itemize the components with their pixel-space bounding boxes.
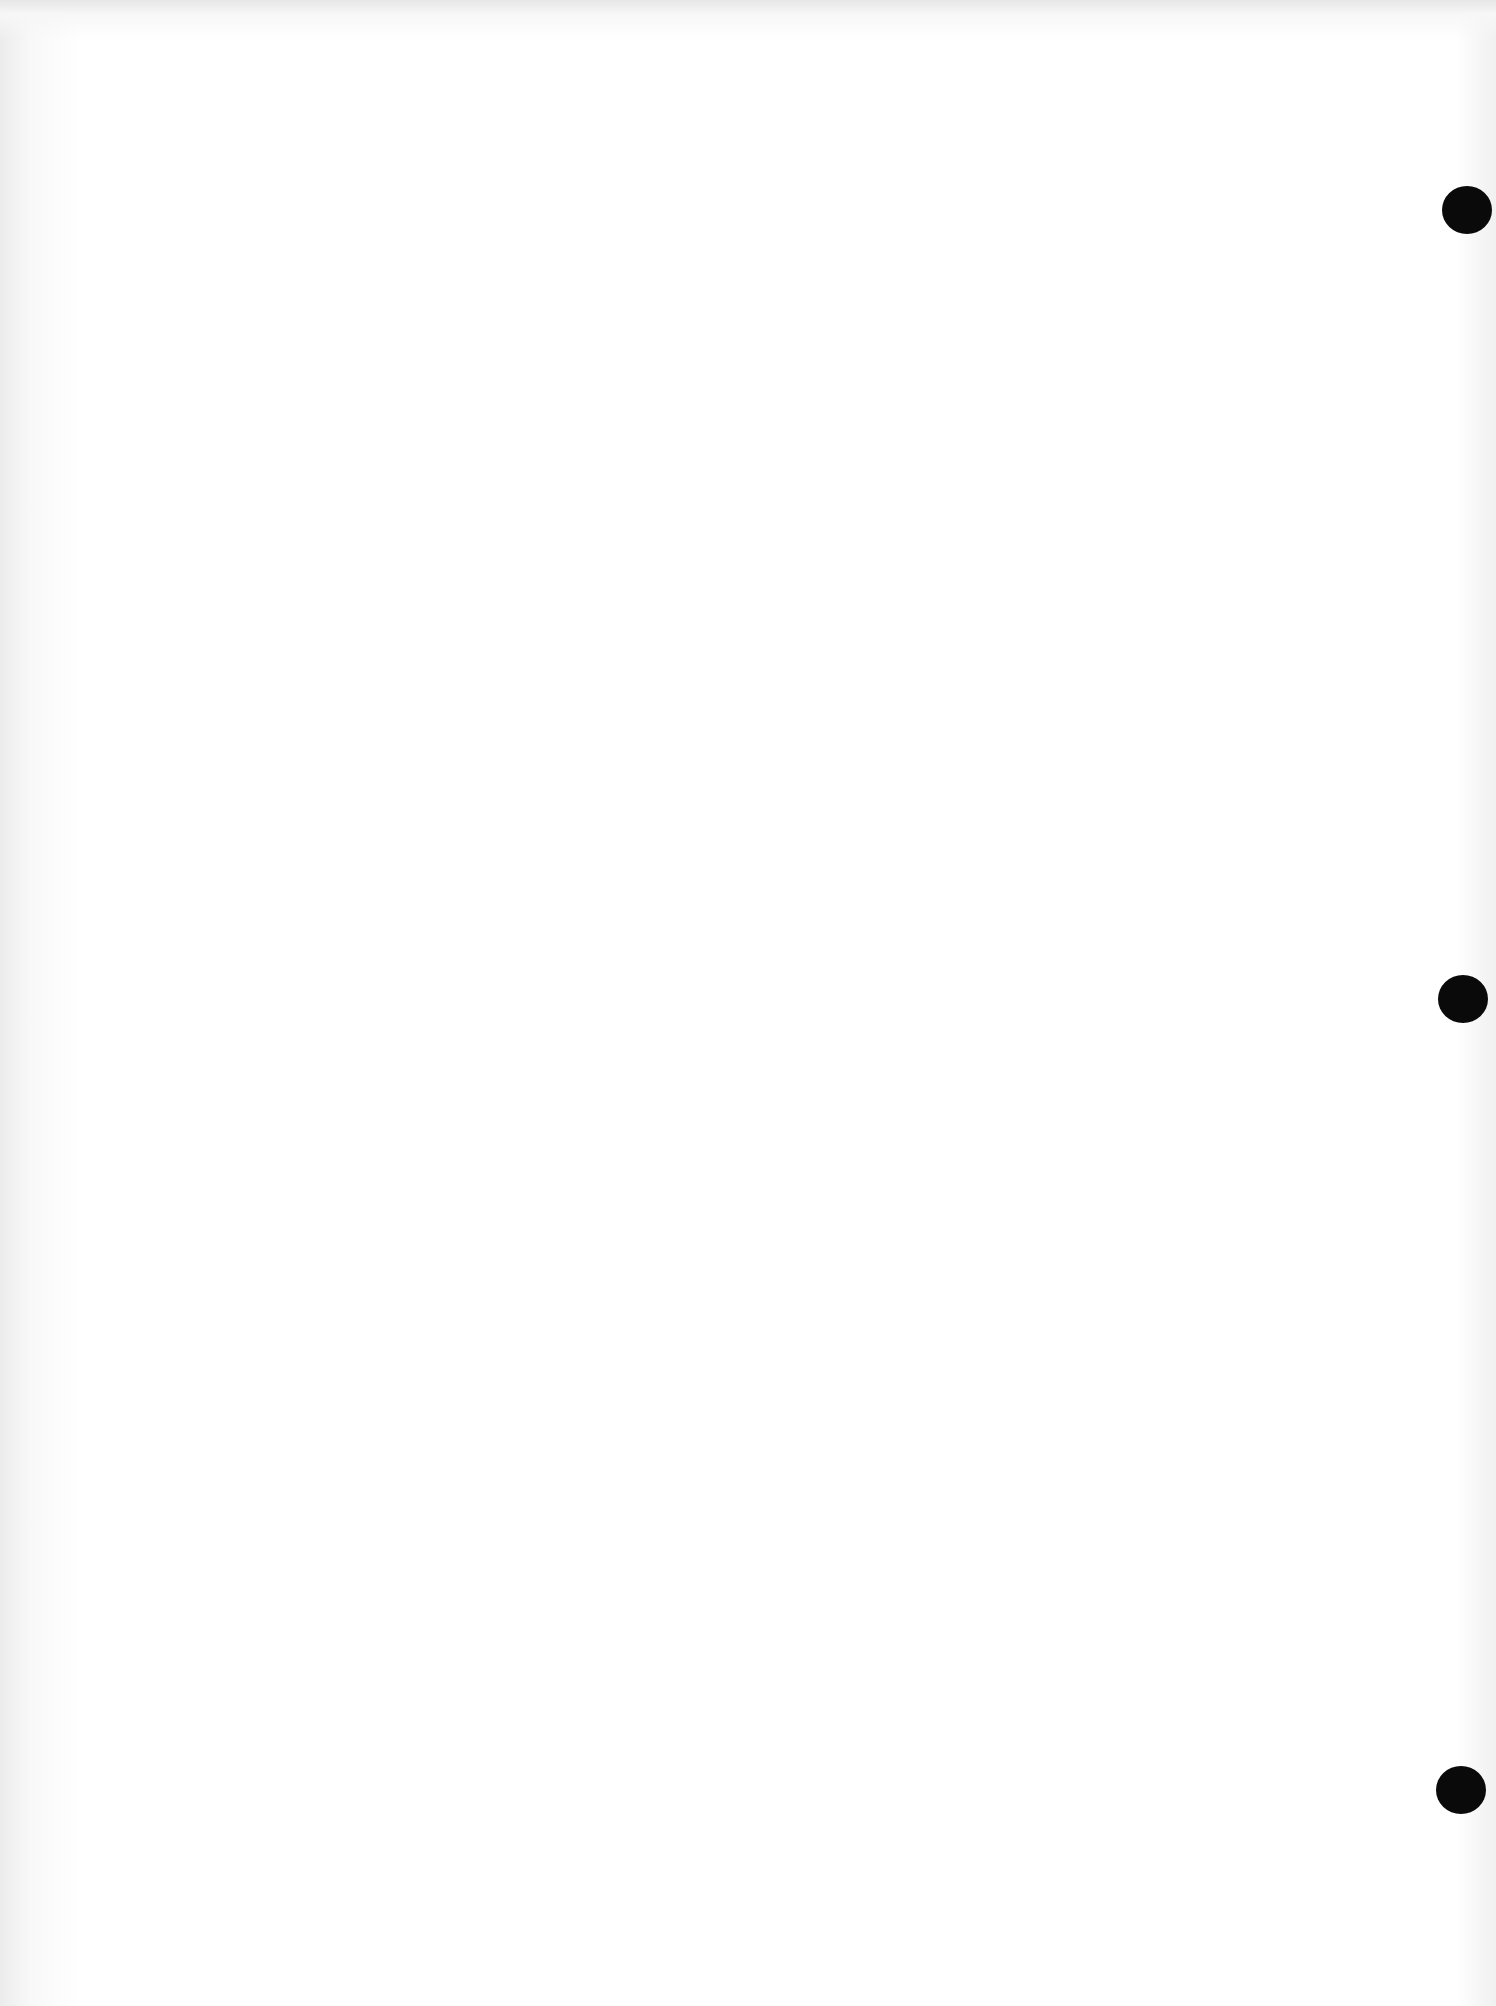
punch-hole-middle <box>1438 975 1488 1023</box>
punch-hole-bottom <box>1436 1766 1486 1814</box>
blank-page <box>0 0 1496 2006</box>
punch-hole-top <box>1442 186 1492 234</box>
